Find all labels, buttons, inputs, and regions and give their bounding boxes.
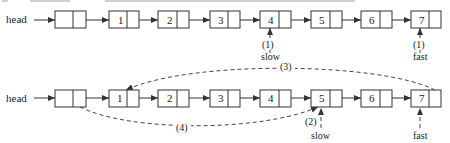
svg-text:6: 6 [369,14,375,26]
svg-text:3: 3 [218,92,224,104]
svg-text:1: 1 [117,92,123,104]
list-node: 2 [158,11,189,28]
list-node: 3 [210,90,240,107]
arc-3-label: (3) [280,61,292,73]
list-node: 1 [109,11,139,28]
slow-label: slow [311,130,331,141]
arc-4: (4) [80,107,318,134]
bottom-row: head 1 2 3 4 [6,61,441,141]
svg-text:6: 6 [369,92,375,104]
step-label: (1) [262,39,274,51]
svg-text:2: 2 [167,14,173,26]
list-node: 4 [260,90,291,107]
list-node-head [55,90,86,107]
head-label: head [6,13,27,25]
top-row: head 1 2 3 4 [6,11,441,62]
list-node: 5 [311,11,342,28]
list-node: 6 [361,11,392,28]
slow-label: slow [261,51,281,62]
svg-text:5: 5 [319,14,325,26]
arc-3: (3) [126,61,435,90]
step-label: (2) [305,116,317,128]
cropped-caption-remnant [2,0,355,2]
svg-text:7: 7 [419,14,425,26]
list-node: 5 [311,90,342,107]
slow-pointer-top: (1) slow [261,28,281,62]
list-node: 1 [109,90,139,107]
head-label: head [6,92,27,104]
fast-pointer-bottom: fast [413,108,428,141]
fast-pointer-top: (1) fast [413,28,428,62]
svg-text:7: 7 [419,92,425,104]
svg-text:1: 1 [118,14,124,26]
list-node: 2 [158,90,189,107]
slow-pointer-bottom: (2) slow [305,108,331,141]
arc-4-label: (4) [176,122,188,134]
fast-label: fast [413,130,428,141]
step-label: (1) [413,39,425,51]
list-node: 3 [210,11,240,28]
svg-text:5: 5 [319,92,325,104]
svg-text:4: 4 [268,92,274,104]
list-node: 6 [361,90,392,107]
list-node-head [55,11,86,28]
list-node: 4 [260,11,291,28]
list-node: 7 [411,11,441,28]
linked-list-diagram: head 1 2 3 4 [0,0,450,143]
fast-label: fast [413,51,428,62]
list-node: 7 [411,90,441,107]
svg-text:3: 3 [218,14,224,26]
svg-text:2: 2 [167,92,173,104]
svg-text:4: 4 [268,14,274,26]
